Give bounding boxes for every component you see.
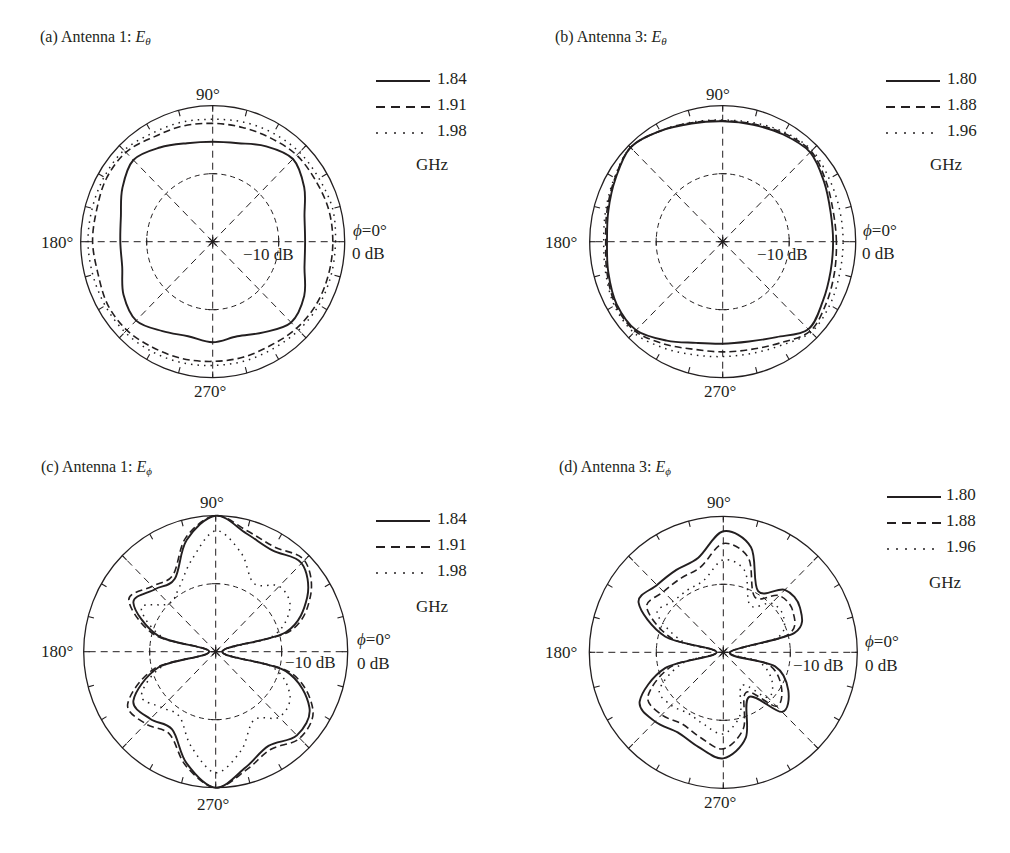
rim-tick	[787, 535, 790, 540]
legend-unit: GHz	[930, 156, 962, 173]
rim-tick	[150, 534, 153, 539]
angle-label-0: ϕ=0°	[353, 222, 387, 239]
legend-dashed-line-icon	[887, 521, 943, 525]
radial-label-10db: −10 dB	[757, 246, 808, 263]
legend-solid-line-icon	[886, 79, 942, 83]
legend-label: 1.91	[437, 96, 467, 113]
polar-plot	[505, 426, 1010, 852]
rim-tick	[85, 207, 91, 209]
rim-tick	[756, 778, 758, 784]
legend-unit: GHz	[416, 156, 448, 173]
phi-value: =0°	[872, 221, 897, 240]
rim-tick	[689, 778, 691, 784]
rim-tick	[302, 146, 306, 150]
legend-dotted-line-icon	[886, 131, 942, 135]
panel-a: (a) Antenna 1: Eθ 90° 180° 270° ϕ=0° 0 d…	[0, 0, 505, 426]
rim-tick	[334, 207, 340, 209]
rim-tick	[834, 584, 839, 587]
rim-tick	[688, 110, 690, 116]
rim-tick	[325, 717, 330, 720]
rim-tick	[276, 124, 279, 129]
phi-value: =0°	[362, 221, 387, 240]
rim-tick	[122, 556, 126, 560]
rim-tick	[101, 717, 106, 720]
series-curve-1-96	[657, 560, 784, 735]
series-curve-1-80	[607, 121, 833, 343]
rim-tick	[834, 717, 839, 720]
legend-label: 1.98	[437, 562, 467, 579]
legend-label: 1.96	[947, 122, 977, 139]
rim-tick	[337, 685, 343, 687]
rim-tick	[814, 556, 818, 560]
legend-label: 1.84	[437, 510, 467, 527]
legend-dotted-line-icon	[376, 571, 432, 575]
angle-label-270: 270°	[197, 796, 229, 813]
legend-label: 1.98	[437, 122, 467, 139]
rim-tick	[629, 744, 633, 748]
grid-spoke	[213, 146, 306, 242]
angle-label-90: 90°	[200, 494, 224, 511]
rim-tick	[88, 685, 94, 687]
rim-tick	[813, 334, 817, 338]
rim-tick	[786, 124, 789, 129]
rim-tick	[85, 275, 91, 277]
rim-tick	[607, 717, 612, 720]
rim-tick	[98, 174, 103, 177]
rim-tick	[833, 174, 838, 177]
rim-tick	[305, 556, 309, 560]
rim-tick	[322, 307, 327, 310]
legend-dashed-line-icon	[886, 105, 942, 109]
rim-tick	[119, 146, 123, 150]
legend-unit: GHz	[929, 574, 961, 591]
legend-label: 1.88	[946, 512, 976, 529]
rim-tick	[179, 110, 181, 116]
rim-tick	[756, 367, 758, 373]
rim-tick	[608, 307, 613, 310]
rim-tick	[656, 765, 659, 770]
rim-tick	[119, 334, 123, 338]
rim-tick	[322, 174, 327, 177]
rim-tick	[594, 617, 600, 619]
series-curve-1-88	[606, 121, 837, 352]
legend-label: 1.96	[946, 538, 976, 555]
rim-tick	[279, 764, 282, 769]
panel-d: (d) Antenna 3: Eϕ 90° 180° 270° ϕ=0° 0 d…	[505, 426, 1010, 852]
rim-tick	[276, 354, 279, 359]
angle-label-90: 90°	[706, 86, 730, 103]
angle-label-270: 270°	[194, 383, 226, 400]
legend-label: 1.91	[437, 536, 467, 553]
rim-tick	[629, 334, 633, 338]
legend-label: 1.88	[947, 96, 977, 113]
rim-tick	[594, 275, 600, 277]
angle-label-180: 180°	[41, 234, 73, 251]
rim-tick	[88, 617, 94, 619]
grid-spoke	[216, 556, 309, 652]
rim-tick	[594, 207, 600, 209]
legend-label: 1.84	[437, 70, 467, 87]
rim-tick	[656, 354, 659, 359]
legend-solid-line-icon	[376, 519, 432, 523]
rim-tick	[756, 110, 758, 116]
rim-tick	[101, 584, 106, 587]
legend-dotted-line-icon	[887, 547, 943, 551]
legend-solid-line-icon	[887, 495, 943, 499]
rim-tick	[814, 744, 818, 748]
phi-symbol: ϕ	[865, 632, 874, 651]
angle-label-0: ϕ=0°	[357, 631, 391, 648]
rim-tick	[325, 584, 330, 587]
rim-tick	[756, 521, 758, 527]
angle-label-0: ϕ=0°	[863, 222, 897, 239]
rim-tick	[98, 307, 103, 310]
angle-label-180: 180°	[545, 644, 577, 661]
rim-tick	[813, 146, 817, 150]
rim-tick	[147, 124, 150, 129]
rim-tick	[248, 520, 250, 526]
phi-value: =0°	[874, 632, 899, 651]
grid-spoke	[723, 146, 817, 242]
rim-tick	[787, 765, 790, 770]
legend-label: 1.80	[946, 486, 976, 503]
rim-tick	[594, 686, 600, 688]
rim-tick	[302, 334, 306, 338]
angle-label-180: 180°	[41, 643, 73, 660]
phi-symbol: ϕ	[353, 221, 362, 240]
